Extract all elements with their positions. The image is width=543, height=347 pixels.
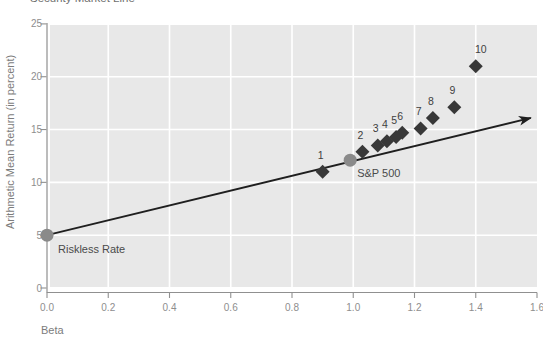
- data-point-label: 1: [318, 149, 324, 161]
- x-tick-label: 1.0: [346, 302, 360, 313]
- data-point-label: 2: [358, 129, 364, 141]
- y-tick-label: 10: [31, 177, 43, 188]
- data-point-label: 4: [382, 118, 388, 130]
- data-point-label: 9: [449, 84, 455, 96]
- x-tick-label: 0.4: [163, 302, 177, 313]
- data-point-label: 10: [475, 43, 487, 55]
- x-tick-label: 1.2: [408, 302, 422, 313]
- x-tick-label: 1.6: [530, 302, 543, 313]
- x-tick-label: 1.4: [469, 302, 483, 313]
- data-point-label: 3: [373, 122, 379, 134]
- y-tick-label: 20: [31, 71, 43, 82]
- data-point-label: 8: [428, 95, 434, 107]
- benchmark-point-circle: [344, 154, 357, 167]
- data-point-label: 6: [397, 110, 403, 122]
- data-point-label: 7: [416, 105, 422, 117]
- security-market-line-figure: Security Market Line Arithmetic Mean Ret…: [0, 0, 543, 347]
- y-tick-label: 0: [36, 283, 42, 294]
- x-tick-label: 0.0: [40, 302, 54, 313]
- x-tick-label: 0.8: [285, 302, 299, 313]
- benchmark-point-circle: [41, 229, 54, 242]
- x-tick-label: 0.6: [224, 302, 238, 313]
- benchmark-label: S&P 500: [357, 167, 400, 179]
- plot-canvas: 05101520250.00.20.40.60.81.01.21.41.6123…: [0, 0, 543, 347]
- y-tick-label: 25: [31, 18, 43, 29]
- x-tick-label: 0.2: [101, 302, 115, 313]
- benchmark-label: Riskless Rate: [58, 243, 125, 255]
- data-point-label: 5: [391, 114, 397, 126]
- x-axis-title: Beta: [41, 324, 64, 336]
- y-tick-label: 15: [31, 124, 43, 135]
